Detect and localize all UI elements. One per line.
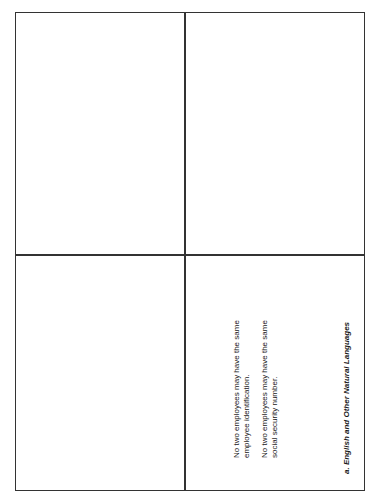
rotated-figure-page: No two employees may have the same emplo… xyxy=(15,12,365,491)
caption-a: a. English and Other Natural Languages xyxy=(342,322,351,474)
constraint-ssn: No two employees may have the same socia… xyxy=(260,303,280,458)
constraint-empid: No two employees may have the same emplo… xyxy=(232,303,252,458)
constraint-text: No two employees may have the same emplo… xyxy=(232,303,288,458)
panel-natural-language: No two employees may have the same emplo… xyxy=(184,256,365,491)
